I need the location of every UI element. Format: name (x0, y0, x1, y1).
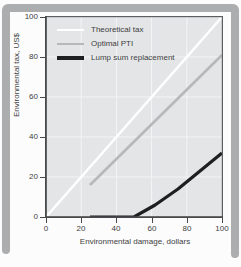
legend-item-lump-sum-replacement: Lump sum replacement (57, 51, 175, 65)
frame-top-band (2, 4, 239, 12)
x-tick-label: 100 (215, 225, 228, 233)
x-tick-mark-40 (116, 218, 117, 223)
x-tick-mark-60 (152, 218, 153, 223)
legend-label-theoretical-tax: Theoretical tax (91, 26, 143, 34)
x-tick-label: 0 (44, 225, 48, 233)
x-tick-label: 20 (77, 225, 86, 233)
y-tick-mark-100 (40, 17, 45, 18)
figure-page: Theoretical tax Optimal PTI Lump sum rep… (0, 0, 241, 267)
x-axis-title: Environmental damage, dollars (80, 237, 190, 246)
frame-right-band (231, 10, 239, 258)
x-tick-mark-20 (81, 218, 82, 223)
y-tick-mark-40 (40, 137, 45, 138)
legend-item-optimal-pti: Optimal PTI (57, 37, 175, 51)
legend-item-theoretical-tax: Theoretical tax (57, 23, 175, 37)
x-tick-mark-100 (222, 218, 223, 223)
y-tick-label: 100 (12, 13, 38, 21)
legend-label-optimal-pti: Optimal PTI (91, 40, 133, 48)
frame-left-band (2, 10, 10, 254)
y-tick-mark-60 (40, 97, 45, 98)
y-tick-label: 20 (12, 173, 38, 181)
y-tick-mark-0 (40, 217, 45, 218)
x-tick-mark-0 (46, 218, 47, 223)
lump-sum-line-swatch (57, 56, 84, 59)
y-tick-mark-20 (40, 177, 45, 178)
legend-label-lump-sum-replacement: Lump sum replacement (91, 54, 175, 62)
x-tick-mark-80 (187, 218, 188, 223)
optimal-pti-line-swatch (57, 43, 84, 46)
y-tick-label: 40 (12, 133, 38, 141)
theoretical-tax-line-swatch (57, 29, 84, 32)
y-tick-label: 0 (12, 213, 38, 221)
x-tick-label: 60 (148, 225, 157, 233)
chart-legend: Theoretical tax Optimal PTI Lump sum rep… (57, 23, 175, 65)
x-tick-label: 80 (183, 225, 192, 233)
x-tick-label: 40 (112, 225, 121, 233)
y-tick-mark-80 (40, 57, 45, 58)
